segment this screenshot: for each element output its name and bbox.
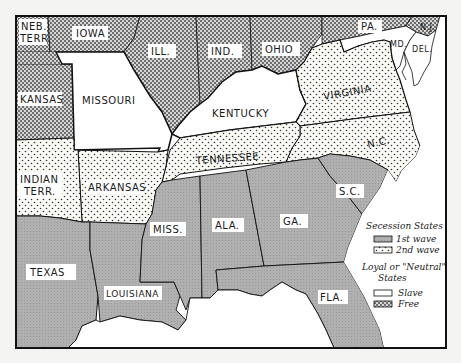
svg-text:DEL.: DEL.: [412, 45, 432, 54]
label-kansas: KANSAS: [18, 92, 63, 106]
label-louisiana: LOUISIANA: [104, 286, 162, 300]
label-texas: TEXAS: [26, 264, 76, 280]
svg-text:KENTUCKY: KENTUCKY: [212, 108, 269, 119]
svg-text:ILL.: ILL.: [151, 46, 170, 57]
svg-text:FLA.: FLA.: [320, 292, 343, 303]
label-md: MD.: [390, 40, 407, 49]
label-indian-terr: INDIAN TERR.: [18, 172, 62, 198]
svg-text:MISSOURI: MISSOURI: [82, 95, 135, 106]
svg-text:PA.: PA.: [361, 21, 378, 32]
label-ohio: OHIO: [262, 42, 300, 56]
svg-text:KANSAS: KANSAS: [20, 94, 63, 105]
legend-label-first-wave: 1st wave: [396, 234, 436, 244]
legend-heading-loyal: Loyal or "Neutral": [361, 262, 446, 272]
label-missouri: MISSOURI: [82, 95, 135, 106]
label-arkansas: ARKANSAS: [86, 180, 146, 194]
svg-text:MISS.: MISS.: [153, 224, 183, 235]
label-kentucky: KENTUCKY: [212, 108, 269, 119]
svg-text:S.C.: S.C.: [339, 186, 361, 197]
legend-heading-states: States: [378, 273, 407, 283]
label-ind: IND.: [208, 44, 242, 58]
svg-text:IND.: IND.: [211, 46, 234, 57]
svg-text:ALA.: ALA.: [215, 220, 240, 231]
legend-swatch-free: [374, 301, 392, 307]
label-ill: ILL.: [148, 44, 176, 58]
svg-text:OHIO: OHIO: [265, 44, 293, 55]
label-ala: ALA.: [212, 218, 244, 232]
legend-label-second-wave: 2nd wave: [395, 245, 440, 255]
label-sc: S.C.: [336, 184, 364, 198]
svg-text:GA.: GA.: [283, 216, 302, 227]
label-nj: N.J.: [420, 23, 435, 32]
legend-swatch-second-wave: [374, 247, 392, 253]
svg-text:N.J.: N.J.: [420, 23, 435, 32]
legend-swatch-slave: [374, 290, 392, 296]
legend-label-free: Free: [397, 299, 419, 309]
legend-label-slave: Slave: [398, 288, 423, 298]
svg-text:TEXAS: TEXAS: [29, 267, 65, 278]
svg-text:LOUISIANA: LOUISIANA: [106, 289, 159, 299]
civil-war-secession-map: NEB. TERR. IOWA ILL. IND. OHIO PA. N.J. …: [0, 0, 461, 363]
legend-swatch-first-wave: [374, 236, 392, 242]
label-miss: MISS.: [150, 222, 186, 236]
svg-text:ARKANSAS: ARKANSAS: [88, 182, 146, 193]
svg-text:MD.: MD.: [390, 40, 407, 49]
svg-text:INDIAN: INDIAN: [20, 174, 58, 185]
svg-text:IOWA: IOWA: [76, 28, 105, 39]
svg-text:TERR.: TERR.: [19, 33, 52, 44]
label-del: DEL.: [412, 45, 432, 54]
legend-heading-secession: Secession States: [366, 221, 443, 231]
label-fla: FLA.: [318, 290, 348, 304]
svg-text:NEB.: NEB.: [21, 21, 47, 32]
svg-text:TERR.: TERR.: [23, 186, 56, 197]
label-pa: PA.: [358, 20, 382, 33]
label-neb-terr: NEB. TERR.: [19, 19, 52, 45]
label-ga: GA.: [280, 214, 308, 228]
state-neb-kansas-gap: [16, 52, 62, 64]
label-iowa: IOWA: [72, 26, 108, 40]
